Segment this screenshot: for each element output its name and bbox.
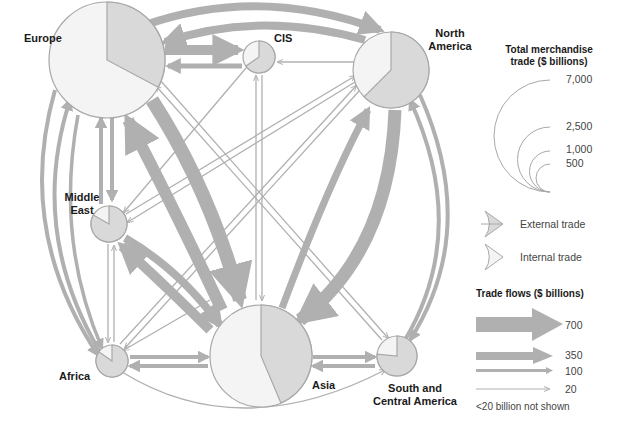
legend-size-title: Total merchandise trade ($ billions)	[494, 44, 604, 68]
flow-na-sca-outer	[410, 95, 448, 340]
region-south-central-america	[377, 336, 417, 376]
region-north-america	[353, 32, 429, 108]
region-europe	[49, 2, 165, 118]
legend-flow-20: 20	[565, 383, 577, 395]
label-asia: Asia	[312, 379, 335, 392]
region-asia	[210, 305, 312, 407]
legend-size-7000: 7,000	[566, 73, 592, 85]
legend-size-title-line2: trade ($ billions)	[510, 56, 587, 67]
flow-me-na	[126, 76, 355, 214]
legend-pie-wedges	[481, 211, 503, 270]
legend-flow-350: 350	[565, 349, 583, 361]
flow-na-asia	[300, 110, 395, 320]
legend-flow-100: 100	[565, 365, 583, 377]
label-sca-line1: South and	[388, 382, 442, 394]
label-north-america-line1: North	[435, 27, 464, 39]
legend-internal-trade: Internal trade	[520, 251, 582, 263]
label-europe: Europe	[24, 32, 62, 45]
flow-700-arrow-icon	[476, 308, 563, 341]
flow-100-arrow-icon	[476, 367, 553, 374]
legend-flow-700: 700	[565, 319, 583, 331]
label-middle-east: Middle East	[58, 191, 106, 217]
flow-sca-europe	[156, 86, 382, 340]
flow-asia-na	[282, 110, 368, 308]
legend-external-trade: External trade	[520, 218, 585, 230]
label-north-america-line2: America	[428, 40, 471, 52]
internal-trade-wedge-icon	[485, 244, 503, 270]
legend-size-500: 500	[566, 157, 584, 169]
legend-flows-title: Trade flows ($ billions)	[476, 288, 584, 300]
legend-flow-arrows	[476, 308, 563, 392]
legend-size-1000: 1,000	[566, 143, 592, 155]
label-south-central-america: South and Central America	[360, 382, 470, 408]
legend-note: <20 billion not shown	[476, 401, 570, 412]
legend-size-2500: 2,500	[566, 120, 592, 132]
legend-size-title-line1: Total merchandise	[505, 44, 593, 55]
flow-na-europe	[165, 25, 365, 42]
label-north-america: North America	[420, 27, 480, 53]
external-trade-wedge-icon	[481, 211, 503, 237]
label-cis: CIS	[274, 32, 292, 45]
region-africa	[96, 345, 128, 377]
label-sca-line2: Central America	[373, 395, 457, 407]
flow-350-arrow-icon	[476, 347, 553, 364]
region-cis	[243, 41, 275, 73]
label-africa: Africa	[59, 370, 90, 383]
legend-size-arcs	[494, 80, 550, 192]
label-middle-east-line2: East	[70, 204, 93, 216]
label-middle-east-line1: Middle	[65, 191, 100, 203]
region-nodes	[49, 2, 429, 407]
